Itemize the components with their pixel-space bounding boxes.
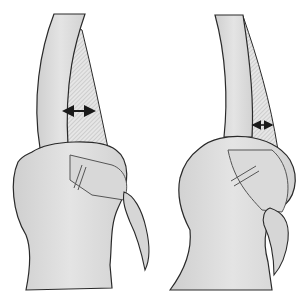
right-specimen	[170, 15, 295, 290]
anatomical-illustration	[0, 0, 303, 302]
left-hook	[123, 192, 148, 270]
left-specimen	[13, 14, 149, 290]
